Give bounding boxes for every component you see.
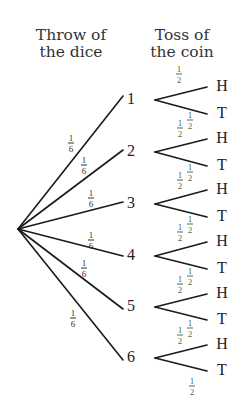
fraction-numerator: 1 <box>178 275 183 283</box>
fraction-denominator: 6 <box>71 320 76 328</box>
dice-probability-6: 16 <box>70 309 76 328</box>
fraction-numerator: 1 <box>178 326 183 334</box>
dice-branch-4 <box>18 229 123 256</box>
fraction-numerator: 1 <box>82 259 87 267</box>
coin-branch-tails-4 <box>155 256 207 269</box>
coin-outcome-tails-1: T <box>217 105 227 121</box>
coin-outcome-tails-3: T <box>217 208 227 224</box>
coin-branch-tails-5 <box>155 307 207 320</box>
fraction-numerator: 1 <box>178 119 183 127</box>
coin-outcome-tails-2: T <box>217 157 227 173</box>
fraction-numerator: 1 <box>188 111 193 119</box>
coin-outcome-heads-1: H <box>216 78 228 94</box>
fraction-denominator: 6 <box>82 270 87 278</box>
coin-branch-tails-3 <box>155 204 207 217</box>
coin-outcome-heads-3: H <box>216 181 228 197</box>
fraction-denominator: 2 <box>178 234 183 242</box>
fraction-denominator: 2 <box>188 278 193 286</box>
coin-branch-tails-2 <box>155 152 207 166</box>
tree-diagram-lines <box>0 0 241 409</box>
dice-probability-5: 16 <box>81 259 87 278</box>
fraction-numerator: 1 <box>178 171 183 179</box>
fraction-denominator: 2 <box>178 337 183 345</box>
fraction-numerator: 1 <box>82 156 87 164</box>
dice-outcome-4: 4 <box>127 247 135 263</box>
coin-branch-tails-1 <box>155 100 207 114</box>
fraction-numerator: 1 <box>188 215 193 223</box>
fraction-numerator: 1 <box>89 231 94 239</box>
fraction-numerator: 1 <box>71 309 76 317</box>
coin-probability-tails-6: 12 <box>189 377 195 396</box>
coin-outcome-heads-4: H <box>216 233 228 249</box>
dice-outcome-3: 3 <box>127 195 135 211</box>
coin-probability-tails-2: 12 <box>187 163 193 182</box>
fraction-numerator: 1 <box>188 319 193 327</box>
dice-outcome-6: 6 <box>127 349 135 365</box>
coin-probability-heads-4: 12 <box>177 223 183 242</box>
coin-probability-tails-4: 12 <box>187 267 193 286</box>
coin-probability-tails-5: 12 <box>187 319 193 338</box>
coin-probability-heads-6: 12 <box>177 326 183 345</box>
fraction-denominator: 2 <box>188 226 193 234</box>
fraction-denominator: 2 <box>177 76 182 84</box>
coin-probability-tails-3: 12 <box>187 215 193 234</box>
fraction-denominator: 2 <box>190 388 195 396</box>
coin-probability-tails-1: 12 <box>187 111 193 130</box>
fraction-denominator: 6 <box>82 167 87 175</box>
fraction-denominator: 6 <box>89 200 94 208</box>
coin-branch-heads-5 <box>155 294 207 307</box>
coin-branch-heads-2 <box>155 139 207 152</box>
coin-probability-heads-1: 12 <box>176 65 182 84</box>
dice-outcome-1: 1 <box>127 91 135 107</box>
dice-branch-6 <box>18 229 123 360</box>
fraction-numerator: 1 <box>190 377 195 385</box>
dice-probability-2: 16 <box>81 156 87 175</box>
dice-probability-1: 16 <box>68 134 74 153</box>
fraction-denominator: 6 <box>89 242 94 250</box>
fraction-numerator: 1 <box>188 267 193 275</box>
coin-probability-heads-5: 12 <box>177 275 183 294</box>
fraction-numerator: 1 <box>177 65 182 73</box>
fraction-denominator: 2 <box>178 130 183 138</box>
coin-outcome-heads-2: H <box>216 130 228 146</box>
fraction-denominator: 2 <box>188 122 193 130</box>
coin-branch-heads-1 <box>155 87 207 100</box>
coin-branch-heads-4 <box>155 242 207 256</box>
fraction-denominator: 2 <box>178 182 183 190</box>
fraction-numerator: 1 <box>69 134 74 142</box>
dice-branch-3 <box>18 202 123 229</box>
coin-outcome-tails-6: T <box>217 362 227 378</box>
fraction-denominator: 2 <box>188 174 193 182</box>
coin-probability-heads-2: 12 <box>177 119 183 138</box>
fraction-denominator: 2 <box>178 286 183 294</box>
coin-outcome-tails-5: T <box>217 311 227 327</box>
fraction-numerator: 1 <box>89 189 94 197</box>
coin-outcome-heads-5: H <box>216 285 228 301</box>
coin-probability-heads-3: 12 <box>177 171 183 190</box>
dice-probability-3: 16 <box>88 189 94 208</box>
coin-branch-tails-6 <box>155 358 207 371</box>
coin-branch-heads-3 <box>155 190 207 204</box>
dice-branch-5 <box>18 229 123 309</box>
coin-outcome-tails-4: T <box>217 260 227 276</box>
coin-branch-heads-6 <box>155 345 207 358</box>
dice-outcome-2: 2 <box>127 143 135 159</box>
coin-outcome-heads-6: H <box>216 336 228 352</box>
fraction-denominator: 2 <box>188 330 193 338</box>
dice-probability-4: 16 <box>88 231 94 250</box>
fraction-denominator: 6 <box>69 145 74 153</box>
fraction-numerator: 1 <box>178 223 183 231</box>
dice-outcome-5: 5 <box>127 298 135 314</box>
fraction-numerator: 1 <box>188 163 193 171</box>
